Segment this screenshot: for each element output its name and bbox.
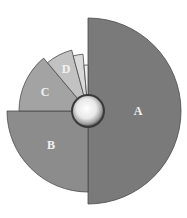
- slice-a-label: A: [134, 104, 143, 118]
- slice-c-label: C: [41, 85, 50, 99]
- slice-d-label: D: [62, 62, 71, 76]
- slice-b-label: B: [47, 138, 55, 152]
- polar-pie-chart: A B C D: [0, 0, 187, 218]
- center-sphere-highlight: [73, 96, 103, 126]
